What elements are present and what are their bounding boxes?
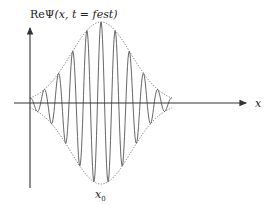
center-label: x0	[95, 188, 106, 203]
y-axis-label: ReΨ(x, t = fest)	[30, 8, 118, 21]
wave-curve	[30, 22, 172, 182]
wave-packet-diagram: ReΨ(x, t = fest) x x0	[0, 0, 276, 205]
upper-envelope	[30, 22, 172, 98]
lower-envelope	[30, 108, 172, 184]
x-axis-label: x	[255, 97, 262, 110]
